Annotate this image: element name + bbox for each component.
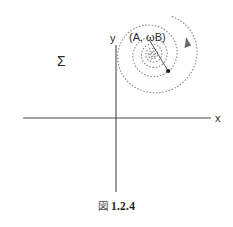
figure-caption: 図1.2.4: [0, 198, 233, 213]
spiral-curve: [118, 17, 197, 93]
caption-figure-mark: 図: [98, 200, 108, 212]
coordinate-diagram: (A, ωB) y x Σ: [0, 0, 233, 227]
system-sigma-label: Σ: [57, 53, 66, 69]
y-axis-label: y: [110, 32, 116, 44]
x-axis-label: x: [215, 112, 221, 124]
equilibrium-point-marker: [166, 69, 170, 73]
point-label: (A, ωB): [129, 31, 166, 43]
caption-figure-number: 1.2.4: [111, 200, 135, 212]
point-leader-line: [150, 41, 168, 70]
figure-container: (A, ωB) y x Σ 図1.2.4: [0, 0, 233, 227]
spiral-direction-arrowhead: [185, 37, 192, 48]
